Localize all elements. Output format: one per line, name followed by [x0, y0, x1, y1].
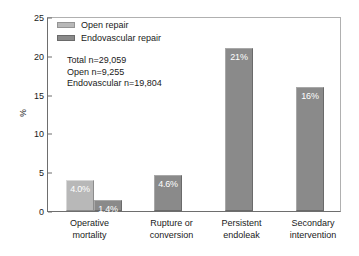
bar-persistent-endoleak-endovascular[interactable]: 21%: [225, 48, 253, 211]
x-label-line-2: mortality: [47, 230, 132, 242]
x-axis-label-operative-mortality: Operative mortality: [47, 218, 132, 241]
legend-swatch-icon: [57, 22, 75, 28]
bar-value-label: 1.4%: [95, 204, 121, 214]
bar-rupture-conversion-endovascular[interactable]: 4.6%: [154, 175, 182, 211]
bar-chart: % 25 20 15 10 5 0 4.0% 1.4% 4.6% 21%: [0, 0, 359, 256]
x-axis-label-secondary-intervention: Secondary intervention: [268, 218, 358, 241]
annotation-endovascular: Endovascular n=19,804: [67, 78, 162, 90]
y-tick-label-20: 20: [22, 52, 44, 61]
x-label-line-1: Operative: [47, 218, 132, 230]
y-tick-label-0: 0: [22, 208, 44, 217]
y-tick-label-25: 25: [22, 14, 44, 23]
plot-area: 25 20 15 10 5 0 4.0% 1.4% 4.6% 21% 16%: [47, 17, 341, 212]
legend-swatch-icon: [57, 35, 75, 41]
bar-operative-mortality-endovascular[interactable]: 1.4%: [94, 200, 122, 211]
bar-secondary-intervention-endovascular[interactable]: 16%: [296, 87, 324, 211]
annotation-total: Total n=29,059: [67, 55, 162, 67]
y-tick-label-15: 15: [22, 91, 44, 100]
x-label-line-1: Secondary: [268, 218, 358, 230]
y-axis-title: %: [18, 103, 28, 123]
y-tick-mark-0: [48, 212, 52, 213]
y-tick-label-5: 5: [22, 169, 44, 178]
sample-size-annotation: Total n=29,059 Open n=9,255 Endovascular…: [67, 55, 162, 90]
bar-value-label: 21%: [226, 52, 252, 62]
legend: Open repair Endovascular repair: [57, 19, 161, 45]
y-tick-mark-20: [48, 56, 52, 57]
bar-operative-mortality-open[interactable]: 4.0%: [66, 180, 94, 211]
legend-item-endovascular-repair[interactable]: Endovascular repair: [57, 32, 161, 43]
legend-item-label: Open repair: [81, 20, 129, 30]
y-tick-mark-10: [48, 134, 52, 135]
y-tick-label-10: 10: [22, 130, 44, 139]
y-tick-mark-15: [48, 95, 52, 96]
y-tick-mark-5: [48, 173, 52, 174]
annotation-open: Open n=9,255: [67, 67, 162, 79]
legend-item-label: Endovascular repair: [81, 33, 161, 43]
bar-value-label: 4.6%: [155, 179, 181, 189]
x-label-line-2: intervention: [268, 230, 358, 242]
y-tick-mark-25: [48, 18, 52, 19]
legend-item-open-repair[interactable]: Open repair: [57, 19, 161, 30]
bar-value-label: 4.0%: [67, 184, 93, 194]
bar-value-label: 16%: [297, 91, 323, 101]
